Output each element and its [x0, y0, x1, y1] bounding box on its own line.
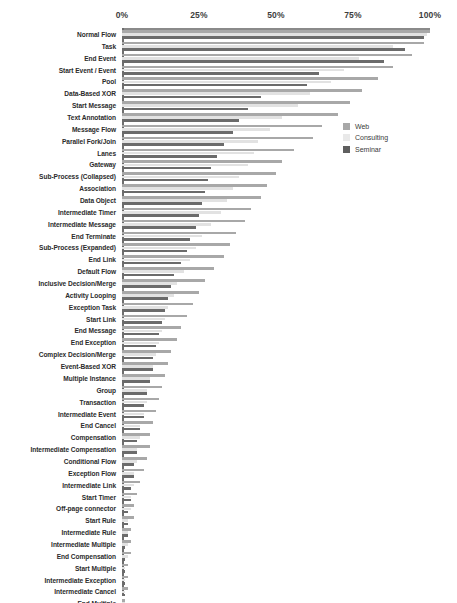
y-axis-label: Start Rule	[85, 517, 116, 525]
bar-group	[122, 208, 430, 220]
legend-swatch-icon	[343, 146, 350, 153]
bar-group	[122, 540, 430, 552]
bar-group	[122, 362, 430, 374]
y-axis-label: Multiple Instance	[63, 375, 116, 383]
y-axis-label: Sub-Process (Expanded)	[39, 244, 116, 252]
bar-group	[122, 160, 430, 172]
legend-item-consulting[interactable]: Consulting	[343, 134, 433, 142]
y-axis-label: Start Link	[86, 316, 116, 324]
bar-group	[122, 350, 430, 362]
y-axis-label: Intermediate Exception	[45, 577, 116, 585]
bar-group	[122, 326, 430, 338]
y-axis-label: Off-page connector	[56, 505, 116, 513]
legend-swatch-icon	[343, 134, 350, 141]
bpmn-element-usage-chart: 0%25%50%75%100% Normal FlowTaskEnd Event…	[0, 0, 457, 603]
y-axis-label: Message Flow	[72, 126, 116, 134]
bar-group	[122, 481, 430, 493]
bar-group	[122, 267, 430, 279]
bar-group	[122, 54, 430, 66]
y-axis-label: Intermediate Timer	[58, 209, 116, 217]
y-axis-label: Gateway	[89, 161, 116, 169]
y-axis-label: Intermediate Link	[62, 482, 116, 490]
y-axis-label: Intermediate Rule	[62, 529, 116, 537]
y-axis-label: Intermediate Message	[48, 221, 116, 229]
bar-group	[122, 77, 430, 89]
bar-group	[122, 599, 430, 603]
y-axis-label: End Cancel	[81, 422, 116, 430]
bar-group	[122, 338, 430, 350]
y-axis-label: Pool	[102, 78, 116, 86]
y-axis-label: Exception Flow	[68, 470, 116, 478]
bar-group	[122, 184, 430, 196]
bar-group	[122, 552, 430, 564]
x-tick-label-4: 100%	[419, 10, 442, 20]
x-tick-label-2: 50%	[267, 10, 285, 20]
y-axis-label: End Link	[89, 256, 116, 264]
y-axis-label: Intermediate Cancel	[54, 588, 116, 596]
bar-group	[122, 172, 430, 184]
bar-group	[122, 101, 430, 113]
y-axis-label: Start Event / Event	[59, 67, 116, 75]
y-axis-label: Lanes	[97, 150, 116, 158]
y-axis-label: Intermediate Compensation	[30, 446, 116, 454]
bar-group	[122, 66, 430, 78]
bar-group	[122, 469, 430, 481]
bar-group	[122, 243, 430, 255]
legend-label: Seminar	[355, 146, 381, 153]
bar-group	[122, 303, 430, 315]
y-axis-label: Intermediate Event	[58, 411, 116, 419]
legend-swatch-icon	[343, 123, 350, 130]
bar-group	[122, 291, 430, 303]
bar-group	[122, 457, 430, 469]
y-axis-label: Group	[96, 387, 116, 395]
bar-group	[122, 445, 430, 457]
y-axis-label: Transaction	[80, 399, 116, 407]
y-axis-category-labels: Normal FlowTaskEnd EventStart Event / Ev…	[0, 28, 119, 594]
legend-item-web[interactable]: Web	[343, 122, 433, 130]
bar-group	[122, 279, 430, 291]
bar-group	[122, 564, 430, 576]
chart-legend: WebConsultingSeminar	[343, 122, 433, 157]
y-axis-label: End Message	[74, 327, 116, 335]
y-axis-label: End Terminate	[71, 233, 116, 241]
bar-group	[122, 421, 430, 433]
y-axis-label: Task	[102, 43, 116, 51]
bar-group	[122, 196, 430, 208]
y-axis-label: Sub-Process (Collapsed)	[39, 173, 116, 181]
y-axis-label: Data-Based XOR	[64, 90, 116, 98]
y-axis-label: Default Flow	[77, 268, 116, 276]
y-axis-label: Inclusive Decision/Merge	[38, 280, 116, 288]
y-axis-label: Association	[79, 185, 116, 193]
bar-group	[122, 587, 430, 599]
legend-item-seminar[interactable]: Seminar	[343, 145, 433, 153]
bar-rows	[122, 30, 430, 603]
plot-area	[122, 28, 430, 594]
bar-group	[122, 42, 430, 54]
bar-group	[122, 493, 430, 505]
y-axis-label: End Exception	[71, 339, 116, 347]
x-tick-label-3: 75%	[344, 10, 362, 20]
y-axis-label: Exception Task	[69, 304, 116, 312]
y-axis-label: Normal Flow	[77, 31, 116, 39]
bar-group	[122, 232, 430, 244]
legend-label: Consulting	[355, 134, 388, 141]
y-axis-label: End Event	[84, 55, 116, 63]
bar-group	[122, 255, 430, 267]
bar-group	[122, 433, 430, 445]
y-axis-label: Data Object	[80, 197, 116, 205]
x-tick-label-1: 25%	[190, 10, 208, 20]
bar-group	[122, 89, 430, 101]
bar-group	[122, 220, 430, 232]
y-axis-label: Complex Decision/Merge	[39, 351, 116, 359]
y-axis-label: Conditional Flow	[64, 458, 116, 466]
y-axis-label: End Compensation	[57, 553, 116, 561]
bar-group	[122, 374, 430, 386]
bar-group	[122, 315, 430, 327]
y-axis-label: Text Annotation	[67, 114, 116, 122]
y-axis-label: Compensation	[71, 434, 116, 442]
y-axis-label: Start Timer	[82, 494, 116, 502]
y-axis-label: Intermediate Multiple	[51, 541, 116, 549]
bar-group	[122, 504, 430, 516]
y-axis-label: Activity Looping	[65, 292, 116, 300]
bar-group	[122, 410, 430, 422]
